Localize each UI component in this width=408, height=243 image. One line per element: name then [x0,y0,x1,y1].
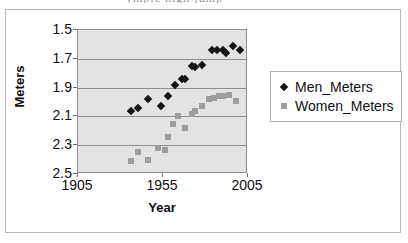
data-point-women_meters [220,93,226,99]
legend-item-label: Men_Meters [295,79,373,95]
y-tick-label: 2.3 [53,136,72,152]
gridline [78,88,246,89]
data-point-men_meters [157,102,165,110]
x-axis-tick-labels: 190519552005 [77,177,247,195]
data-point-women_meters [199,103,205,109]
cropped-title-text: ympic high jump [126,0,246,3]
y-tick-mark [73,29,77,30]
data-point-men_meters [198,60,206,68]
gridline [78,116,246,117]
y-tick-label: 1.7 [53,50,72,66]
data-point-women_meters [175,113,181,119]
plot-area [77,29,247,173]
data-point-men_meters [143,95,151,103]
data-point-women_meters [192,108,198,114]
data-point-women_meters [170,121,176,127]
data-point-women_meters [162,147,168,153]
y-axis-tick-labels: 2.52.32.11.91.71.5 [28,29,72,173]
x-tick-mark [77,173,78,177]
data-point-women_meters [135,149,141,155]
x-tick-mark [247,173,248,177]
data-point-women_meters [128,158,134,164]
square-marker-icon [277,103,291,109]
x-tick-label: 1905 [61,177,92,193]
legend-item[interactable]: Men_Meters [277,77,394,96]
chart-legend: Men_MetersWomen_Meters [270,71,402,122]
x-tick-label: 2005 [231,177,262,193]
data-point-women_meters [182,125,188,131]
y-tick-label: 1.5 [53,21,72,37]
legend-item[interactable]: Women_Meters [277,96,394,115]
x-axis-title: Year [77,200,247,215]
y-tick-mark [73,58,77,59]
y-tick-label: 1.9 [53,79,72,95]
y-tick-mark [73,115,77,116]
gridline [78,59,246,60]
legend-item-label: Women_Meters [295,98,394,114]
data-point-men_meters [164,92,172,100]
x-tick-mark [162,173,163,177]
chart-frame: 2.52.32.11.91.71.5 190519552005 Meters Y… [5,9,401,233]
y-tick-label: 2.1 [53,107,72,123]
y-tick-mark [73,87,77,88]
data-point-women_meters [233,98,239,104]
diamond-marker-icon [277,84,291,90]
data-point-women_meters [165,134,171,140]
data-point-men_meters [222,49,230,57]
data-point-men_meters [235,46,243,54]
y-tick-mark [73,144,77,145]
data-point-women_meters [226,92,232,98]
y-axis-title: Meters [12,52,27,122]
data-point-women_meters [145,157,151,163]
data-point-women_meters [155,145,161,151]
x-tick-label: 1955 [146,177,177,193]
